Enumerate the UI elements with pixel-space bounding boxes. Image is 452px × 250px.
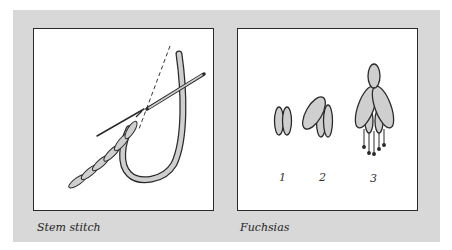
stem-stitch-caption: Stem stitch xyxy=(37,221,101,234)
fuchsia-stage-1 xyxy=(275,107,292,135)
stage-label-1: 1 xyxy=(279,171,286,184)
fuchsias-figure: 1 2 3 xyxy=(237,28,418,211)
stem-stitch-figure xyxy=(33,28,214,211)
stem-stitch-illustration xyxy=(34,29,215,212)
fuchsia-stage-3 xyxy=(351,64,398,155)
fuchsias-illustration: 1 2 3 xyxy=(238,29,419,212)
stage-label-3: 3 xyxy=(370,172,377,185)
fuchsia-stage-2 xyxy=(298,93,332,137)
stage-label-2: 2 xyxy=(318,171,326,184)
fuchsias-caption: Fuchsias xyxy=(240,221,289,234)
